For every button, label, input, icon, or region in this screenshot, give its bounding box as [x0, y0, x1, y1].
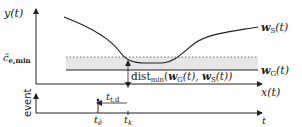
y-axis-label: y(t): [3, 7, 23, 20]
wg-label: wG(t): [261, 64, 289, 78]
t-axis-label: t: [262, 115, 267, 126]
distance-label: distmin(wG(t), wS(t)): [131, 70, 232, 84]
x-axis-label: x(t): [261, 86, 280, 99]
event-dot: [97, 99, 100, 102]
event-distance-diagram: y(t) c̃e,min wS(t) wG(t) distmin(wG(t), …: [0, 0, 302, 127]
event-axis-label: event: [22, 88, 33, 117]
threshold-label: c̃e,min: [3, 52, 31, 65]
tick-tk-label: tk: [124, 114, 132, 127]
ws-label: wS(t): [261, 21, 288, 35]
tick-te-label: tẽ: [94, 114, 103, 127]
ws-curve: [64, 17, 258, 63]
interval-label: tt,d: [106, 91, 120, 104]
